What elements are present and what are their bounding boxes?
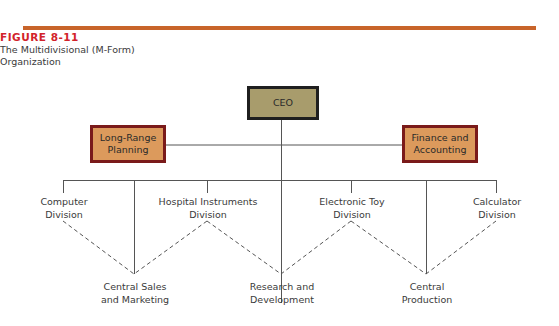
division-hospital-instruments: Hospital Instruments Division bbox=[159, 195, 258, 221]
division-line1: Calculator bbox=[473, 195, 521, 208]
ceo-box: CEO bbox=[247, 86, 319, 120]
division-computer: Computer Division bbox=[40, 195, 87, 221]
ceo-label: CEO bbox=[273, 97, 293, 109]
division-line1: Computer bbox=[40, 195, 87, 208]
function-line2: and Marketing bbox=[101, 293, 169, 306]
staff-label-line1: Long-Range bbox=[100, 132, 157, 144]
division-calculator: Calculator Division bbox=[473, 195, 521, 221]
division-line2: Division bbox=[159, 208, 258, 221]
long-range-planning-box: Long-Range Planning bbox=[90, 125, 166, 163]
function-line2: Development bbox=[250, 293, 314, 306]
central-production: Central Production bbox=[402, 280, 453, 306]
division-electronic-toy: Electronic Toy Division bbox=[319, 195, 384, 221]
division-line2: Division bbox=[40, 208, 87, 221]
central-sales-marketing: Central Sales and Marketing bbox=[101, 280, 169, 306]
function-line1: Central bbox=[402, 280, 453, 293]
division-line1: Electronic Toy bbox=[319, 195, 384, 208]
research-development: Research and Development bbox=[250, 280, 314, 306]
staff-label-line2: Accounting bbox=[411, 144, 468, 156]
function-line1: Central Sales bbox=[101, 280, 169, 293]
connector-lines bbox=[0, 0, 559, 326]
division-line1: Hospital Instruments bbox=[159, 195, 258, 208]
finance-accounting-box: Finance and Accounting bbox=[402, 125, 478, 163]
function-line2: Production bbox=[402, 293, 453, 306]
division-line2: Division bbox=[319, 208, 384, 221]
function-line1: Research and bbox=[250, 280, 314, 293]
staff-label-line2: Planning bbox=[100, 144, 157, 156]
division-line2: Division bbox=[473, 208, 521, 221]
staff-label-line1: Finance and bbox=[411, 132, 468, 144]
